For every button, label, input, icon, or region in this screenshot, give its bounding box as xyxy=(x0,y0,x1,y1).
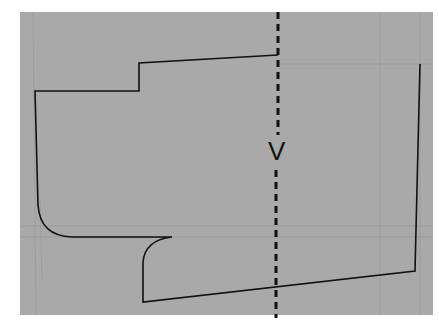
shape-outline xyxy=(35,55,420,302)
cut-line-label: V xyxy=(268,136,285,166)
shape-diagram xyxy=(0,0,439,325)
